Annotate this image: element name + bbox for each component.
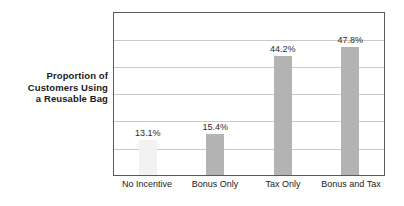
bar-slot: 15.4% [182, 13, 250, 175]
y-axis-title-line-3: a Reusable Bag [10, 93, 108, 105]
bar-value-label: 47.8% [317, 35, 385, 45]
bar-slot: 44.2% [249, 13, 317, 175]
bar-slot: 47.8% [317, 13, 385, 175]
bar-value-label: 13.1% [114, 128, 182, 138]
plot-area: 13.1% 15.4% 44.2% 47.8% [113, 12, 385, 176]
bar-series: 13.1% 15.4% 44.2% 47.8% [114, 13, 384, 175]
x-axis-label: Bonus and Tax [317, 179, 385, 189]
bar-value-label: 44.2% [249, 44, 317, 54]
bar [274, 56, 292, 175]
x-axis-label: Bonus Only [181, 179, 249, 189]
x-axis-label: No Incentive [113, 179, 181, 189]
x-axis-labels: No Incentive Bonus Only Tax Only Bonus a… [113, 179, 385, 189]
chart-figure: Proportion of Customers Using a Reusable… [0, 0, 404, 206]
bar [206, 134, 224, 175]
x-axis-label: Tax Only [249, 179, 317, 189]
bar-value-label: 15.4% [182, 122, 250, 132]
y-axis-title-line-1: Proportion of [10, 70, 108, 82]
y-axis-title-line-2: Customers Using [10, 82, 108, 94]
bar [139, 140, 157, 175]
y-axis-title: Proportion of Customers Using a Reusable… [10, 70, 108, 105]
bar [341, 47, 359, 175]
bar-slot: 13.1% [114, 13, 182, 175]
